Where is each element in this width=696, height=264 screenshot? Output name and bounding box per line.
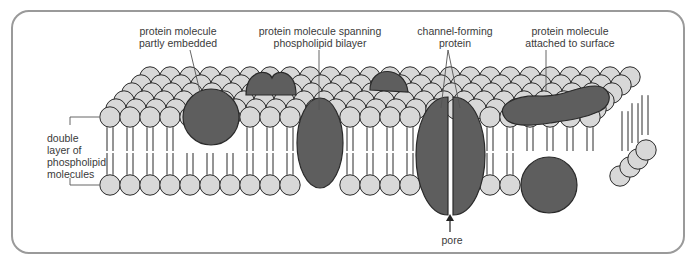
label-protein-partly-embedded: protein molecule partly embedded — [128, 25, 228, 49]
label-protein-attached-to-surface: protein molecule attached to surface — [510, 25, 630, 49]
label-pore: pore — [437, 234, 467, 246]
label-double-layer-phospholipid: double layer of phospholipid molecules — [47, 132, 106, 180]
label-protein-spanning: protein molecule spanning phospholipid b… — [255, 25, 385, 49]
label-channel-forming-protein: channel-forming protein — [405, 25, 505, 49]
